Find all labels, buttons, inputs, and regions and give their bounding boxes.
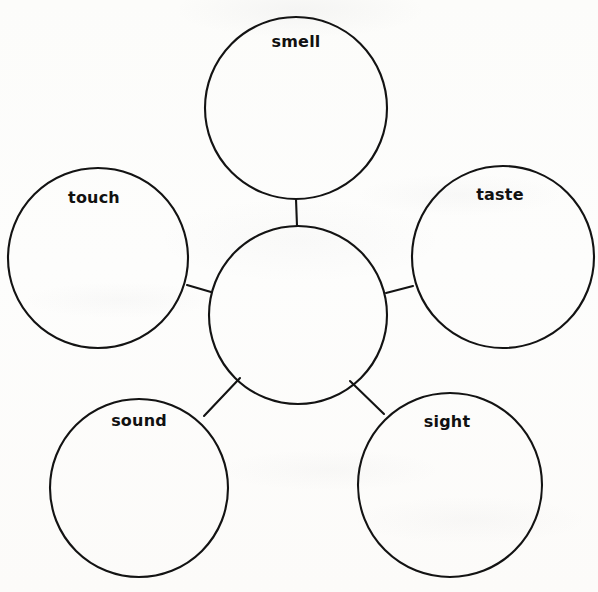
connector-center-to-taste (386, 286, 413, 293)
worksheet-page: smelltouchtastesoundsight (0, 0, 598, 592)
connector-center-to-touch (187, 285, 211, 292)
bubble-label-taste: taste (476, 185, 523, 204)
bubble-label-touch: touch (68, 188, 120, 207)
bubble-label-smell: smell (271, 32, 320, 51)
bubble-label-sound: sound (111, 411, 167, 430)
bubble-layer (8, 17, 594, 577)
connector-center-to-sound (204, 378, 240, 416)
connector-center-to-sight (350, 381, 384, 414)
bubble-label-sight: sight (424, 412, 471, 431)
center-bubble-blank[interactable] (209, 226, 387, 404)
five-senses-web-diagram (0, 0, 598, 592)
connector-center-to-smell (296, 199, 297, 226)
